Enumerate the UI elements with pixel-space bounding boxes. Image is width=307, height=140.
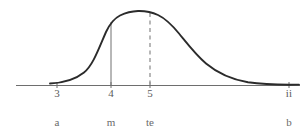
param-label-te: te bbox=[146, 117, 154, 128]
density-curve bbox=[50, 11, 299, 85]
distribution-figure: 3 4 5 ii a m te b bbox=[0, 0, 307, 140]
tick-label-11: ii bbox=[286, 88, 293, 99]
tick-label-4: 4 bbox=[108, 88, 114, 99]
tick-label-5: 5 bbox=[147, 88, 153, 99]
param-label-b: b bbox=[286, 117, 292, 128]
param-label-m: m bbox=[107, 117, 116, 128]
param-label-a: a bbox=[55, 117, 60, 128]
tick-label-3: 3 bbox=[54, 88, 60, 99]
